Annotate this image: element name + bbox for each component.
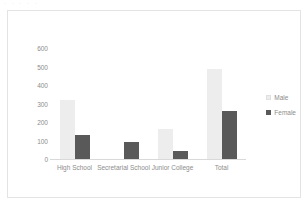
top-edge-artifact: · · · · ·	[4, 0, 124, 10]
y-tick-label: 300	[37, 100, 48, 107]
bar-female-high-school	[75, 135, 90, 159]
chart-frame: 0100200300400500600 High SchoolSecretari…	[7, 10, 301, 198]
legend-item-female[interactable]: Female	[266, 108, 296, 116]
category-label: Secretarial School	[97, 164, 150, 171]
bar-female-total	[222, 111, 237, 159]
y-tick-label: 200	[37, 119, 48, 126]
legend-label: Male	[274, 94, 288, 101]
legend-label: Female	[274, 109, 296, 116]
y-tick-label: 100	[37, 137, 48, 144]
legend-swatch-icon	[266, 95, 271, 100]
bar-female-secretarial-school	[124, 142, 139, 159]
bar-male-high-school	[60, 100, 75, 159]
x-axis-line	[50, 159, 246, 160]
y-tick-label: 600	[37, 45, 48, 52]
y-tick-label: 400	[37, 82, 48, 89]
category-label: High School	[57, 164, 92, 171]
y-axis: 0100200300400500600	[26, 11, 48, 197]
y-tick-label: 0	[44, 156, 48, 163]
bar-female-junior-college	[173, 151, 188, 159]
legend-swatch-icon	[266, 110, 271, 115]
bar-male-total	[207, 69, 222, 159]
y-tick-label: 500	[37, 63, 48, 70]
bars-layer	[50, 11, 246, 159]
chart-legend: MaleFemale	[266, 93, 296, 123]
category-label: Total	[215, 164, 229, 171]
plot-area: 0100200300400500600 High SchoolSecretari…	[8, 11, 300, 197]
category-label: Junior College	[152, 164, 194, 171]
legend-item-male[interactable]: Male	[266, 93, 296, 101]
bar-male-junior-college	[158, 129, 173, 159]
